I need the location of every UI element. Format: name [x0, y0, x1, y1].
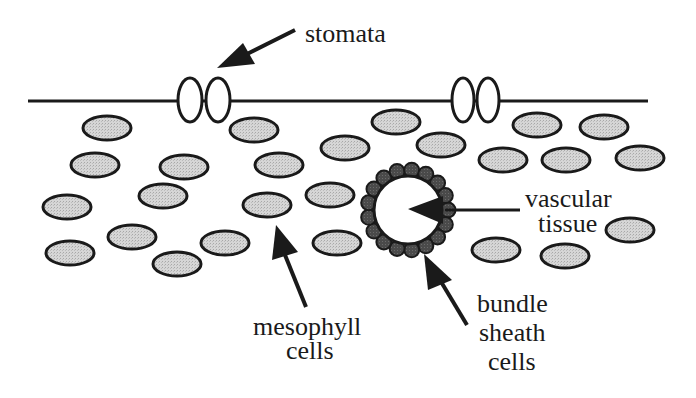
mesophyll-cell	[139, 184, 187, 208]
mesophyll-cell	[153, 252, 201, 276]
mesophyll-cell	[255, 153, 303, 177]
stomata-label: stomata	[305, 19, 386, 48]
mesophyll-cell	[313, 231, 361, 255]
mesophyll-arrow-icon	[272, 225, 306, 307]
mesophyll-cell	[372, 110, 420, 134]
mesophyll-cell	[201, 231, 249, 255]
mesophyll-cell	[83, 116, 131, 140]
mesophyll-cell	[43, 195, 91, 219]
mesophyll-cell	[513, 113, 561, 137]
bundle-sheath-label-line3: cells	[488, 347, 536, 376]
mesophyll-cell	[541, 244, 589, 268]
mesophyll-cell	[71, 153, 119, 177]
mesophyll-cell	[417, 133, 465, 157]
bundle-sheath-arrow-icon	[424, 254, 467, 325]
mesophyll-cell	[472, 238, 520, 262]
bundle-sheath-label-line2: sheath	[479, 318, 545, 347]
mesophyll-cell	[243, 193, 291, 217]
mesophyll-cell	[616, 146, 664, 170]
mesophyll-cell	[580, 115, 628, 139]
vascular-tissue-label-line2: tissue	[538, 209, 597, 238]
bundle-sheath-label-line1: bundle	[477, 289, 548, 318]
mesophyll-cell	[606, 218, 654, 242]
mesophyll-cell	[46, 241, 94, 265]
mesophyll-cell	[306, 183, 354, 207]
mesophyll-cell	[108, 225, 156, 249]
mesophyll-cell	[160, 155, 208, 179]
stomata-right	[452, 78, 499, 122]
mesophyll-label-line2: cells	[286, 336, 334, 365]
mesophyll-cell	[230, 118, 278, 142]
mesophyll-cell	[479, 148, 527, 172]
mesophyll-cell	[321, 136, 369, 160]
leaf-cross-section-diagram: stomata vascular tissue mesophyll cells …	[0, 0, 696, 398]
mesophyll-cell	[542, 148, 590, 172]
stomata-arrow-icon	[217, 30, 295, 68]
